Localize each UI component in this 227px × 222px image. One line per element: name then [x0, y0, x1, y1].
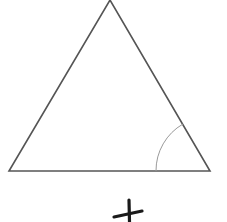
triangle [9, 0, 210, 171]
cross-mark-icon [114, 200, 142, 222]
triangle-diagram [0, 0, 227, 222]
angle-arc-bottom-right [156, 124, 183, 171]
